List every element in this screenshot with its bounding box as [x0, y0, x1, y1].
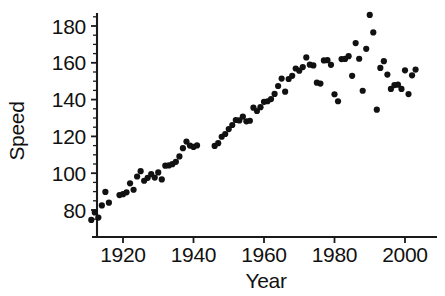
- data-point: [300, 64, 306, 70]
- data-point: [134, 173, 140, 179]
- data-point: [331, 91, 337, 97]
- data-point: [405, 91, 411, 97]
- x-axis-tick-labels: 19201940196019802000: [100, 243, 428, 266]
- data-point: [412, 67, 418, 73]
- data-point: [353, 40, 359, 46]
- y-tick-label-120: 120: [52, 125, 86, 148]
- data-point: [282, 89, 288, 95]
- data-point: [130, 187, 136, 193]
- data-point: [360, 88, 366, 94]
- data-point: [173, 159, 179, 165]
- data-point: [303, 54, 309, 60]
- data-point: [138, 168, 144, 174]
- data-point: [363, 46, 369, 52]
- data-point: [180, 145, 186, 151]
- data-point: [374, 107, 380, 113]
- x-tick-label-1920: 1920: [100, 243, 146, 266]
- data-point: [275, 83, 281, 89]
- scatter-plot: 80100120140160180 19201940196019802000 S…: [0, 0, 445, 296]
- y-tick-label-100: 100: [52, 162, 86, 185]
- data-points-layer: [88, 12, 418, 223]
- x-tick-label-1960: 1960: [241, 243, 287, 266]
- data-point: [349, 73, 355, 79]
- y-tick-label-160: 160: [52, 51, 86, 74]
- x-tick-label-1940: 1940: [171, 243, 217, 266]
- data-point: [155, 169, 161, 175]
- data-point: [289, 73, 295, 79]
- data-point: [377, 65, 383, 71]
- data-point: [88, 217, 94, 223]
- x-axis-title: Year: [245, 269, 287, 292]
- data-point: [95, 214, 101, 220]
- data-point: [310, 62, 316, 68]
- data-point: [346, 53, 352, 59]
- data-point: [176, 153, 182, 159]
- y-tick-label-80: 80: [63, 199, 86, 222]
- data-point: [127, 180, 133, 186]
- data-point: [381, 58, 387, 64]
- data-point: [92, 209, 98, 215]
- data-point: [194, 142, 200, 148]
- data-point: [247, 118, 253, 124]
- data-point: [99, 202, 105, 208]
- y-tick-label-180: 180: [52, 15, 86, 38]
- data-point: [123, 189, 129, 195]
- data-point: [328, 62, 334, 68]
- data-point: [317, 80, 323, 86]
- x-tick-label-2000: 2000: [382, 243, 428, 266]
- data-point: [335, 98, 341, 104]
- data-point: [102, 189, 108, 195]
- y-axis-tick-labels: 80100120140160180: [52, 15, 86, 222]
- data-point: [215, 140, 221, 146]
- y-axis-title: Speed: [5, 101, 28, 160]
- data-point: [222, 131, 228, 137]
- data-point: [152, 175, 158, 181]
- data-point: [159, 176, 165, 182]
- data-point: [229, 122, 235, 128]
- data-point: [106, 200, 112, 206]
- chart-figure: 80100120140160180 19201940196019802000 S…: [0, 0, 445, 296]
- y-tick-label-140: 140: [52, 88, 86, 111]
- data-point: [370, 29, 376, 35]
- data-point: [402, 67, 408, 73]
- data-point: [398, 86, 404, 92]
- data-point: [257, 104, 263, 110]
- data-point: [356, 56, 362, 62]
- data-point: [279, 76, 285, 82]
- x-tick-label-1980: 1980: [312, 243, 358, 266]
- data-point: [268, 96, 274, 102]
- data-point: [271, 91, 277, 97]
- data-point: [367, 12, 373, 18]
- data-point: [409, 72, 415, 78]
- data-point: [384, 71, 390, 77]
